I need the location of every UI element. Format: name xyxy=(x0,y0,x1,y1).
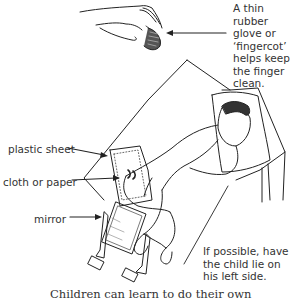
glove-note: A thin rubber glove or ‘fingercot’ helps… xyxy=(233,2,295,90)
plastic-sheet xyxy=(110,146,152,206)
gloved-hand-icon xyxy=(80,6,162,50)
position-note: If possible, have the child lie on his l… xyxy=(203,245,295,283)
plastic-sheet-label: plastic sheet xyxy=(8,143,75,156)
mirror xyxy=(88,202,150,282)
bottom-caption: Children can learn to do their own xyxy=(50,288,252,298)
mirror-label: mirror xyxy=(34,213,66,226)
cloth-or-paper-label: cloth or paper xyxy=(3,176,77,189)
pointer-arrow-icon xyxy=(166,30,226,36)
child-figure xyxy=(124,102,251,265)
